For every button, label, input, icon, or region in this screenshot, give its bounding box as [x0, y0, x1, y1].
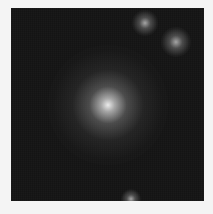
faint-source-top [132, 10, 158, 36]
central-galaxy [48, 45, 168, 165]
faint-source-upper-right [161, 27, 191, 57]
astronomical-image [11, 8, 204, 201]
